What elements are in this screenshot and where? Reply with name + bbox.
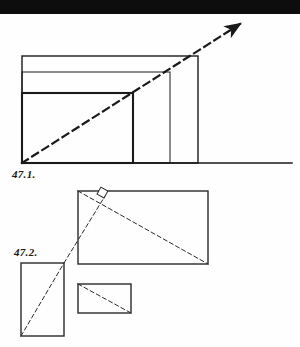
long-dashed-ray — [64, 196, 105, 263]
figure-47-2-drawing — [0, 0, 300, 347]
right-angle-square-icon — [97, 187, 108, 198]
wide-rectangle-diagonal — [78, 191, 208, 264]
small-rectangle-diagonal — [78, 284, 131, 313]
tall-rectangle-diagonal — [21, 263, 64, 336]
figure-label-47-2: 47.2. — [14, 246, 38, 258]
figure-page: 47.1. 47.2. — [0, 0, 300, 347]
